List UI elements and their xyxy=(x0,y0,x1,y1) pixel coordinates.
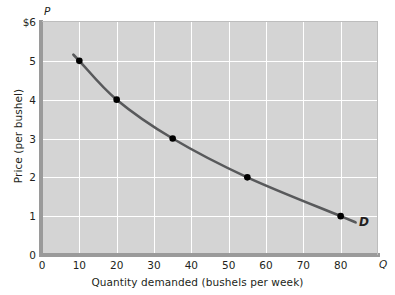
y-tick-label: $6 xyxy=(0,16,36,28)
x-tick-label: 10 xyxy=(64,259,94,271)
x-tick-label: 60 xyxy=(251,259,281,271)
data-point-group xyxy=(76,58,344,220)
x-axis-line xyxy=(39,253,380,257)
x-tick-label: 40 xyxy=(176,259,206,271)
x-tick-label: 50 xyxy=(214,259,244,271)
y-axis-line xyxy=(39,20,43,257)
y-axis-title: Price (per bushel) xyxy=(12,56,24,216)
y-tick-label: 0 xyxy=(0,249,36,261)
demand-curve-label: D xyxy=(359,215,369,229)
plot-frame-top xyxy=(42,21,378,22)
data-point-marker xyxy=(76,58,83,65)
x-tick-label: 20 xyxy=(102,259,132,271)
x-tick-label: 30 xyxy=(139,259,169,271)
data-point-marker xyxy=(113,96,120,103)
demand-curve-figure: 01020304050607080 012345$6 P Q Quantity … xyxy=(0,0,395,295)
x-axis-title: Quantity demanded (bushels per week) xyxy=(0,276,395,288)
data-point-marker xyxy=(337,213,344,220)
demand-curve-path xyxy=(73,55,355,223)
data-point-marker xyxy=(244,174,251,181)
plot-frame-right xyxy=(377,21,378,255)
curve-layer xyxy=(42,22,378,255)
x-axis-variable-marker: Q xyxy=(379,258,387,270)
plot-area xyxy=(42,22,378,255)
data-point-marker xyxy=(169,135,176,142)
y-axis-variable-marker: P xyxy=(44,5,50,17)
x-tick-label: 70 xyxy=(288,259,318,271)
x-tick-label: 80 xyxy=(326,259,356,271)
